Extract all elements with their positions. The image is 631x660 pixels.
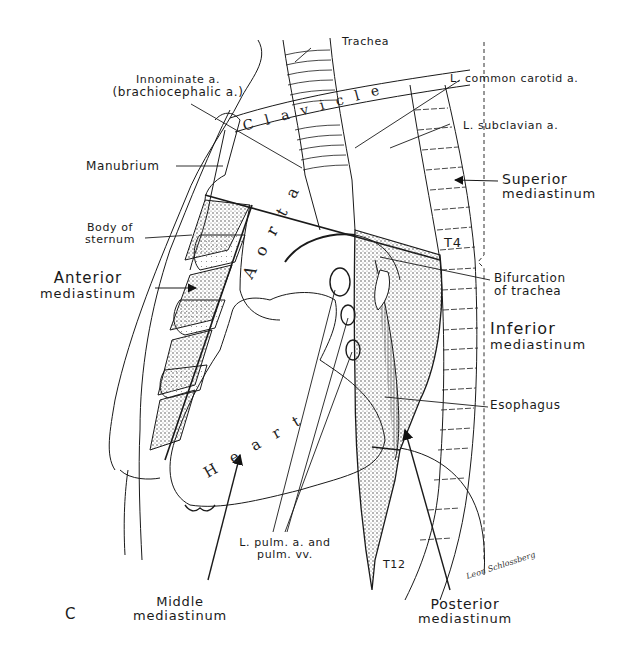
- bifurcation-of-trachea-label: Bifurcation of trachea: [494, 272, 566, 297]
- pulm-label-line1: L. pulm. a. and: [230, 537, 340, 549]
- middle-label-line1: Middle: [115, 595, 245, 609]
- anterior-label-line2: mediastinum: [28, 287, 148, 301]
- innominate-label-line1: Innominate a.: [93, 74, 263, 86]
- posterior-label-line2: mediastinum: [400, 612, 530, 626]
- vertebra-t12-label: T12: [383, 559, 406, 571]
- inferior-label-line1: Inferior: [490, 321, 586, 338]
- inferior-label-line2: mediastinum: [490, 338, 586, 352]
- manubrium-label: Manubrium: [86, 160, 160, 173]
- body-of-sternum-line2: sternum: [70, 234, 150, 246]
- bifurcation-label-line2: of trachea: [494, 285, 566, 298]
- inferior-mediastinum-label: Inferior mediastinum: [490, 321, 586, 351]
- mediastinum-diagram: Clavicle Aorta Heart T4 T12 Trachea Inno…: [0, 0, 631, 660]
- body-of-sternum-label: Body of sternum: [70, 222, 150, 245]
- l-common-carotid-label: L. common carotid a.: [450, 73, 578, 85]
- pulm-label-line2: pulm. vv.: [230, 549, 340, 561]
- pulmonary-vessels-label: L. pulm. a. and pulm. vv.: [230, 537, 340, 560]
- anterior-label-line1: Anterior: [28, 271, 148, 287]
- posterior-label-line1: Posterior: [400, 597, 530, 612]
- posterior-mediastinum-label: Posterior mediastinum: [400, 597, 530, 625]
- body-of-sternum-line1: Body of: [70, 222, 150, 234]
- superior-label-line1: Superior: [502, 172, 596, 187]
- innominate-label-line2: (brachiocephalic a.): [93, 86, 263, 99]
- vertebral-column-right: [440, 85, 477, 600]
- middle-mediastinum-label: Middle mediastinum: [115, 595, 245, 622]
- innominate-artery-label: Innominate a. (brachiocephalic a.): [93, 74, 263, 98]
- middle-label-line2: mediastinum: [115, 609, 245, 623]
- anterior-mediastinum-label: Anterior mediastinum: [28, 271, 148, 300]
- panel-letter: C: [65, 607, 75, 623]
- l-subclavian-label: L. subclavian a.: [463, 120, 558, 132]
- trachea-label: Trachea: [342, 36, 389, 48]
- bifurcation-label-line1: Bifurcation: [494, 272, 566, 285]
- esophagus-label: Esophagus: [490, 399, 561, 412]
- vertebra-t4-label: T4: [444, 236, 462, 250]
- superior-mediastinum-label: Superior mediastinum: [502, 172, 596, 200]
- superior-label-line2: mediastinum: [502, 187, 596, 201]
